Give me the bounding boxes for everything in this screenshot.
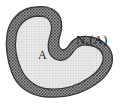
figure-canvas (0, 0, 126, 106)
neighborhood-label-argument: (A) (89, 32, 107, 47)
neighborhood-label: Nε(A) (76, 33, 107, 48)
set-a-label: A (38, 49, 47, 61)
epsilon-neighborhood-figure: Nε(A) A (0, 0, 126, 106)
neighborhood-label-base: N (76, 32, 85, 47)
